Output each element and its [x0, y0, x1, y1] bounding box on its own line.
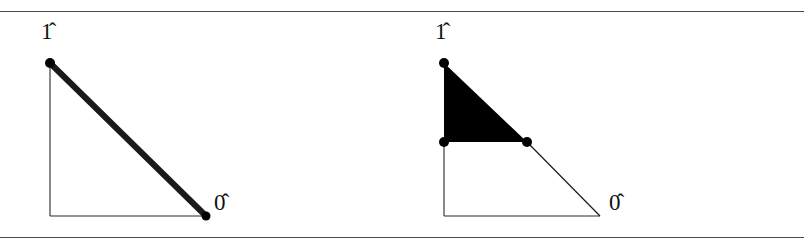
left-panel-graphic	[0, 12, 402, 237]
figure-root: 1̂ 0̂ 1̂ 0̂	[0, 0, 804, 248]
right-solid-triangle-region	[444, 63, 527, 142]
panel-left-chain-simplex	[0, 12, 402, 237]
right-top-vertex-dot	[439, 58, 449, 68]
right-label-one-hat: 1̂	[435, 20, 447, 43]
panel-right-filled-simplex	[402, 12, 804, 237]
right-thin-hypotenuse-edge	[527, 142, 600, 216]
left-thick-hypotenuse-edge	[50, 63, 206, 216]
right-panel-graphic	[402, 12, 804, 237]
bottom-horizontal-rule	[0, 237, 804, 238]
left-top-vertex-dot	[45, 58, 55, 68]
left-bottom-right-vertex-dot	[202, 212, 211, 221]
left-label-one-hat: 1̂	[41, 20, 53, 43]
right-mid-right-vertex-dot	[522, 137, 532, 147]
right-mid-left-vertex-dot	[439, 137, 449, 147]
right-label-zero-hat: 0̂	[609, 191, 621, 214]
left-label-zero-hat: 0̂	[214, 191, 226, 214]
